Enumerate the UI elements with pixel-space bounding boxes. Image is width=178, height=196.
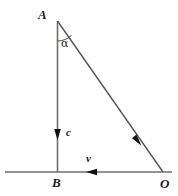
- vector-v-arrowhead: [86, 169, 97, 175]
- vertex-label-b: B: [52, 176, 61, 189]
- segment-AO: [58, 21, 164, 172]
- angle-label-alpha: α: [61, 38, 68, 49]
- vector-c-arrowhead: [54, 129, 61, 140]
- figure-canvas: [0, 0, 178, 196]
- vertex-label-a: A: [38, 8, 47, 21]
- geometry-figure: A B O c v α: [0, 0, 178, 196]
- vector-label-c: c: [66, 127, 71, 138]
- vertex-label-o: O: [160, 177, 169, 190]
- vector-label-v: v: [86, 153, 91, 164]
